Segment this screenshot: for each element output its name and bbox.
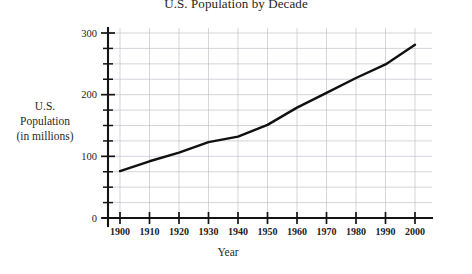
x-axis-tick-label: 1950: [258, 226, 278, 237]
x-axis-tick-label: 1990: [376, 226, 396, 237]
plot-area: 0100200300190019101920193019401950196019…: [0, 0, 472, 274]
chart-figure: U.S. Population by Decade U.S. Populatio…: [0, 0, 472, 274]
x-axis-tick-label: 1960: [287, 226, 307, 237]
tick-label-layer: 0100200300190019101920193019401950196019…: [81, 28, 425, 237]
y-axis-tick-label: 200: [81, 89, 97, 100]
y-axis-tick-label: 100: [81, 151, 97, 162]
x-axis-tick-label: 1970: [317, 226, 337, 237]
x-axis-tick-label: 1930: [199, 226, 219, 237]
y-axis-tick-label: 0: [92, 213, 97, 224]
y-axis-tick-label: 300: [81, 28, 97, 39]
x-axis-tick-label: 2000: [405, 226, 425, 237]
x-axis-tick-label: 1980: [346, 226, 366, 237]
x-axis-tick-label: 1900: [110, 226, 130, 237]
x-axis-tick-label: 1910: [140, 226, 160, 237]
x-axis-tick-label: 1940: [228, 226, 248, 237]
x-axis-tick-label: 1920: [169, 226, 189, 237]
